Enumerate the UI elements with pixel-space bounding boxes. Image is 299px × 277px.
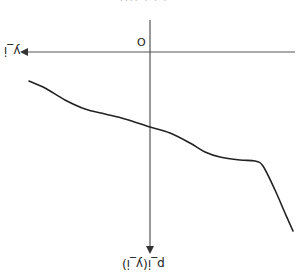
density-curve — [29, 81, 293, 231]
diagram-canvas — [0, 0, 299, 277]
x-axis-label: y_i — [4, 44, 20, 58]
density-diagram: · · · ···· O y_i p_i(y_i) — [0, 0, 299, 277]
y-axis-label: p_i(y_i) — [122, 257, 165, 271]
cropped-caption-text: · · · ···· — [118, 0, 167, 5]
origin-label: O — [137, 36, 146, 49]
